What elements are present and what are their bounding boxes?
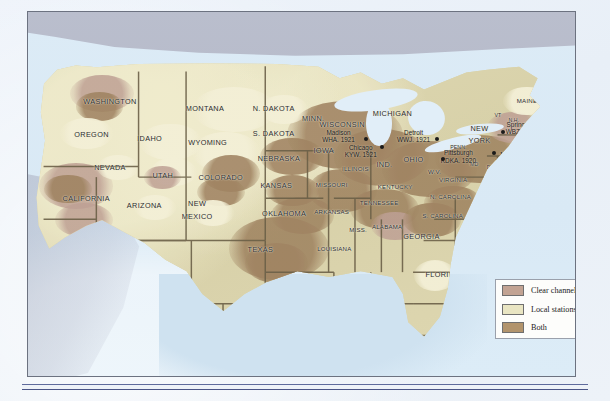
legend-row-local: Local stations	[502, 304, 576, 315]
map-legend: Clear channel stations Local stations Bo…	[495, 279, 576, 339]
legend-label-local: Local stations	[531, 305, 576, 314]
station-location-dot	[380, 145, 384, 149]
bottom-divider-rule	[22, 384, 588, 390]
page-background: WASHINGTONOREGONIDAHOMONTANAN. DAKOTAS. …	[0, 0, 610, 401]
legend-swatch-clear-channel	[502, 285, 524, 296]
legend-label-both: Both	[531, 323, 547, 332]
station-location-dot	[492, 151, 496, 155]
legend-row-both: Both	[502, 322, 576, 333]
station-location-dot	[501, 130, 505, 134]
map-frame: WASHINGTONOREGONIDAHOMONTANAN. DAKOTAS. …	[27, 11, 576, 377]
legend-swatch-local	[502, 304, 524, 315]
legend-swatch-both	[502, 322, 524, 333]
legend-label-clear-channel: Clear channel stations	[531, 286, 576, 295]
legend-row-clear-channel: Clear channel stations	[502, 285, 576, 296]
station-location-dot	[364, 137, 368, 141]
station-location-dot	[441, 157, 445, 161]
station-location-dot	[435, 137, 439, 141]
